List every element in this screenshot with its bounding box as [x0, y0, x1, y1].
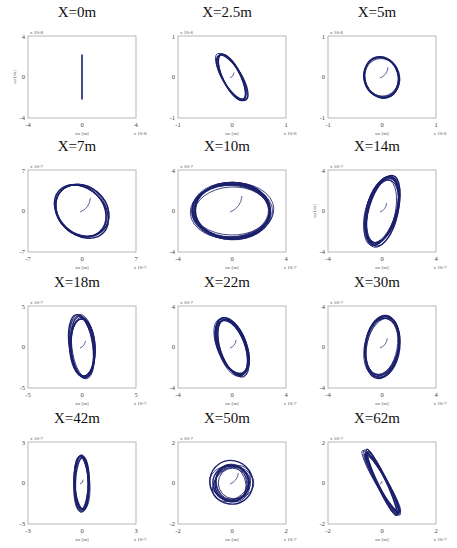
x-tick-label: 2: [434, 527, 437, 534]
y-tick-label: 0: [22, 343, 25, 350]
plot-area: 30-3-303x 10-7x 10-7ux [m]: [2, 406, 154, 542]
x-tick-label: 0: [380, 121, 383, 128]
y-exponent-label: x 10-7: [180, 436, 193, 441]
y-exponent-label: x 10-8: [30, 30, 43, 35]
plot-area: 10-1-101x 10-6x 10-6ux [m]: [302, 0, 454, 136]
x-tick-label: 0: [380, 527, 383, 534]
x-tick-label: -7: [25, 255, 31, 262]
subplot-x30m: X=30m40-4-404x 10-7x 10-7ux [m]: [302, 270, 452, 406]
y-tick-label: 0: [22, 207, 25, 214]
x-tick-label: 0: [230, 121, 233, 128]
subplot-x50m: X=50m20-2-202x 10-7x 10-7ux [m]: [152, 406, 302, 542]
x-tick-label: 4: [434, 255, 438, 262]
y-exponent-label: x 10-6: [330, 30, 343, 35]
y-exponent-label: x 10-7: [330, 164, 343, 169]
x-axis-label: ux [m]: [375, 537, 389, 542]
x-tick-label: -5: [25, 391, 30, 398]
x-tick-label: 0: [80, 527, 83, 534]
plot-area: 40-4-404x 10-7x 10-7ux [m]: [302, 270, 454, 406]
y-tick-label: 0: [322, 207, 325, 214]
x-tick-label: 7: [134, 255, 138, 262]
y-tick-label: -5: [20, 384, 25, 391]
x-tick-label: 3: [134, 527, 137, 534]
y-tick-label: -1: [320, 114, 325, 121]
y-tick-label: -4: [20, 114, 26, 121]
y-tick-label: -2: [320, 520, 325, 527]
y-tick-label: 3: [22, 439, 25, 446]
y-tick-label: -7: [20, 248, 26, 255]
y-tick-label: 4: [172, 303, 176, 310]
y-exponent-label: x 10-7: [30, 300, 43, 305]
y-tick-label: -1: [170, 114, 175, 121]
y-tick-label: -2: [170, 520, 175, 527]
y-tick-label: 0: [322, 343, 325, 350]
y-exponent-label: x 10-7: [330, 436, 343, 441]
y-tick-label: -4: [320, 384, 326, 391]
x-tick-label: 1: [284, 121, 287, 128]
y-tick-label: -3: [20, 520, 25, 527]
x-tick-label: -4: [325, 391, 331, 398]
y-tick-label: 0: [22, 73, 25, 80]
y-tick-label: 2: [172, 439, 175, 446]
plot-area: 40-4-404x 10-8x 10-8ux [m]uz [m]: [2, 0, 154, 136]
y-axis-label: uz [m]: [312, 204, 317, 218]
x-tick-label: -4: [25, 121, 31, 128]
y-exponent-label: x 10-7: [180, 300, 193, 305]
x-exponent-label: x 10-7: [434, 537, 447, 542]
x-tick-label: 4: [134, 121, 138, 128]
x-tick-label: 0: [80, 391, 83, 398]
y-exponent-label: x 10-7: [330, 300, 343, 305]
y-tick-label: 2: [322, 439, 325, 446]
y-tick-label: 7: [22, 167, 26, 174]
x-tick-label: 0: [380, 391, 383, 398]
y-tick-label: 1: [172, 33, 175, 40]
x-tick-label: 4: [434, 391, 438, 398]
subplot-x10m: X=10m40-4-404x 10-7x 10-7ux [m]: [152, 134, 302, 270]
x-tick-label: -4: [175, 255, 181, 262]
x-axis-label: ux [m]: [225, 537, 239, 542]
y-tick-label: 4: [22, 33, 26, 40]
plot-area: 20-2-202x 10-7x 10-7ux [m]: [302, 406, 454, 542]
subplot-x14m: X=14m40-4-404x 10-7x 10-7ux [m]uz [m]: [302, 134, 452, 270]
plot-area: 10-1-101x 10-6x 10-6ux [m]: [152, 0, 304, 136]
y-tick-label: 0: [322, 479, 325, 486]
subplot-x18m: X=18m50-5-505x 10-7x 10-7ux [m]: [2, 270, 152, 406]
figure-grid: X=0m40-4-404x 10-8x 10-8ux [m]uz [m]X=2.…: [0, 0, 457, 548]
subplot-x62m: X=62m20-2-202x 10-7x 10-7ux [m]: [302, 406, 452, 542]
subplot-x5m: X=5m10-1-101x 10-6x 10-6ux [m]: [302, 0, 452, 136]
y-tick-label: 0: [172, 343, 175, 350]
plot-area: 40-4-404x 10-7x 10-7ux [m]uz [m]: [302, 134, 454, 270]
subplot-x2.5m: X=2.5m10-1-101x 10-6x 10-6ux [m]: [152, 0, 302, 136]
subplot-x22m: X=22m40-4-404x 10-7x 10-7ux [m]: [152, 270, 302, 406]
x-tick-label: -2: [175, 527, 180, 534]
plot-area: 40-4-404x 10-7x 10-7ux [m]: [152, 270, 304, 406]
plot-area: 40-4-404x 10-7x 10-7ux [m]: [152, 134, 304, 270]
x-tick-label: 2: [284, 527, 287, 534]
y-tick-label: 4: [322, 167, 326, 174]
y-tick-label: 4: [172, 167, 176, 174]
y-axis-label: uz [m]: [12, 70, 17, 84]
y-tick-label: 0: [322, 73, 325, 80]
x-tick-label: 0: [80, 121, 83, 128]
plot-area: 50-5-505x 10-7x 10-7ux [m]: [2, 270, 154, 406]
y-tick-label: 0: [172, 479, 175, 486]
y-tick-label: -4: [320, 248, 326, 255]
subplot-x7m: X=7m70-7-707x 10-7x 10-7ux [m]: [2, 134, 152, 270]
y-exponent-label: x 10-7: [180, 164, 193, 169]
y-tick-label: 4: [322, 303, 326, 310]
x-tick-label: 0: [230, 255, 233, 262]
y-exponent-label: x 10-7: [30, 436, 43, 441]
x-tick-label: 0: [230, 527, 233, 534]
y-tick-label: -4: [170, 248, 176, 255]
plot-area: 20-2-202x 10-7x 10-7ux [m]: [152, 406, 304, 542]
x-tick-label: 0: [380, 255, 383, 262]
y-tick-label: 0: [22, 479, 25, 486]
x-tick-label: -3: [25, 527, 30, 534]
x-tick-label: 5: [134, 391, 137, 398]
y-exponent-label: x 10-6: [180, 30, 193, 35]
subplot-x42m: X=42m30-3-303x 10-7x 10-7ux [m]: [2, 406, 152, 542]
x-tick-label: -4: [175, 391, 181, 398]
y-tick-label: 1: [322, 33, 325, 40]
subplot-x0m: X=0m40-4-404x 10-8x 10-8ux [m]uz [m]: [2, 0, 152, 136]
x-tick-label: 0: [80, 255, 83, 262]
